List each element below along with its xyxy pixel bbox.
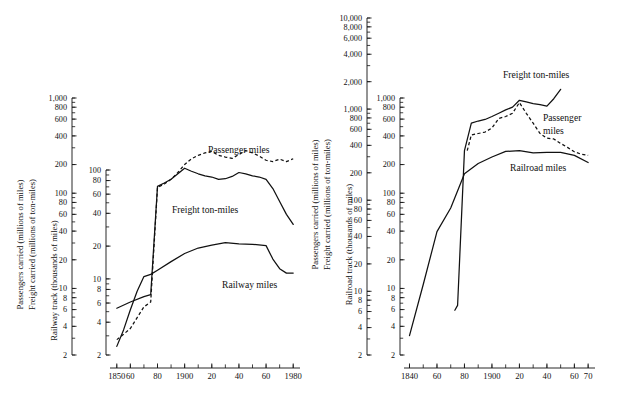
y-tick-label: 20 — [387, 256, 395, 265]
y-tick-label: 100 — [89, 166, 101, 175]
y-tick-label: 800 — [383, 103, 395, 112]
y-tick-label: 20 — [354, 260, 362, 269]
y-tick-label: 8 — [391, 294, 395, 303]
y-tick-label: 200 — [383, 160, 395, 169]
y-tick-label: 600 — [55, 115, 67, 124]
y-tick-label: 60 — [93, 190, 101, 199]
x-tick-label: 80 — [460, 371, 469, 381]
y-tick-label: 400 — [350, 141, 362, 150]
y-tick-label: 10 — [387, 284, 395, 293]
series-label-passenger-miles: Passenger miles — [208, 144, 270, 155]
y-tick-label: 1,000 — [377, 94, 395, 103]
y-tick-label: 10,000 — [339, 14, 362, 23]
series-passenger-miles — [117, 151, 293, 340]
y-tick-label: 6 — [63, 305, 67, 314]
y-tick-label: 8 — [358, 296, 362, 305]
y-tick-label: 100 — [55, 189, 67, 198]
y-tick-label: 1,000 — [344, 105, 362, 114]
outer-right-axis: 10,0008,0006,0004,0002,0001,000800600400… — [310, 14, 372, 360]
x-tick-label: 60 — [126, 371, 135, 381]
right-chart: 10,0008,0006,0004,0002,0001,000800600400… — [310, 14, 595, 381]
series-label-railroad-miles: Railroad miles — [510, 162, 566, 173]
y-tick-label: 6 — [97, 299, 101, 308]
y-axis-title: Passengers carried (millions of miles) — [310, 139, 320, 269]
x-tick-label: 1900 — [176, 371, 193, 381]
y-tick-label: 8 — [63, 294, 67, 303]
y-axis-title: Railway track (thousands of miles) — [49, 220, 59, 340]
y-tick-label: 2 — [391, 351, 395, 360]
x-tick-label: 40 — [543, 371, 552, 381]
railroad-statistics-figure: 1,00080060040020010080604020108642Passen… — [0, 0, 617, 407]
y-axis-title: Freight carried (millions of ton-miles) — [322, 139, 332, 270]
y-tick-label: 40 — [93, 209, 101, 218]
y-tick-label: 4 — [63, 322, 67, 331]
y-tick-label: 4 — [97, 318, 101, 327]
x-tick-label: 20 — [207, 371, 216, 381]
x-tick-label: 1850 — [108, 371, 125, 381]
x-tick-label: 60 — [262, 371, 271, 381]
series-label-freight-ton-miles: Freight ton-miles — [503, 69, 570, 80]
left-chart: 1,00080060040020010080604020108642Passen… — [15, 94, 302, 381]
y-tick-label: 600 — [383, 115, 395, 124]
y-tick-label: 8 — [97, 285, 101, 294]
outer-left-axis: 1,00080060040020010080604020108642Passen… — [15, 94, 77, 360]
y-tick-label: 40 — [354, 232, 362, 241]
y-tick-label: 10 — [59, 284, 67, 293]
y-axis-title: Passengers carried (millions of miles) — [15, 179, 25, 309]
y-tick-label: 2 — [97, 351, 101, 360]
figure-canvas: 1,00080060040020010080604020108642Passen… — [0, 0, 617, 407]
y-tick-label: 40 — [59, 227, 67, 236]
y-tick-label: 200 — [350, 169, 362, 178]
x-tick-label: 1980 — [285, 371, 302, 381]
x-tick-label: 1900 — [483, 371, 500, 381]
series-railway-miles — [117, 243, 293, 347]
y-tick-label: 6 — [391, 305, 395, 314]
y-tick-label: 6 — [358, 307, 362, 316]
y-axis-title: Freight carried (millions of ton-miles) — [27, 179, 37, 310]
x-tick-label: 80 — [153, 371, 162, 381]
right-chart-x-axis: 18406080190020406070 — [401, 363, 595, 381]
x-tick-label: 1840 — [401, 371, 418, 381]
y-tick-label: 800 — [350, 114, 362, 123]
y-tick-label: 60 — [354, 216, 362, 225]
y-tick-label: 60 — [59, 210, 67, 219]
left-chart-x-axis: 1850608019002040601980 — [108, 363, 302, 381]
y-tick-label: 4 — [391, 322, 395, 331]
x-tick-label: 40 — [235, 371, 244, 381]
y-tick-label: 400 — [383, 132, 395, 141]
y-tick-label: 400 — [55, 132, 67, 141]
y-tick-label: 100 — [383, 189, 395, 198]
y-tick-label: 2 — [358, 351, 362, 360]
x-tick-label: 20 — [515, 371, 524, 381]
y-tick-label: 6,000 — [344, 34, 362, 43]
series-label-railway-miles: Railway miles — [222, 279, 277, 290]
series-label-passenger-miles: miles — [543, 125, 564, 136]
y-tick-label: 10 — [354, 287, 362, 296]
y-tick-label: 1,000 — [49, 94, 67, 103]
y-tick-label: 800 — [55, 103, 67, 112]
y-tick-label: 200 — [55, 160, 67, 169]
x-tick-label: 60 — [433, 371, 442, 381]
series-passenger-miles — [467, 103, 588, 156]
y-tick-label: 10 — [93, 275, 101, 284]
y-tick-label: 2,000 — [344, 78, 362, 87]
y-tick-label: 80 — [387, 198, 395, 207]
y-tick-label: 60 — [387, 210, 395, 219]
series-label-passenger-miles: Passenger — [543, 112, 582, 123]
y-tick-label: 80 — [59, 198, 67, 207]
y-tick-label: 80 — [354, 205, 362, 214]
x-tick-label: 70 — [584, 371, 593, 381]
y-tick-label: 8,000 — [344, 23, 362, 32]
y-tick-label: 20 — [59, 256, 67, 265]
y-axis-title: Railroad track (thousands of miles) — [344, 184, 354, 305]
y-tick-label: 20 — [93, 242, 101, 251]
y-tick-label: 40 — [387, 227, 395, 236]
y-tick-label: 2 — [63, 351, 67, 360]
y-tick-label: 80 — [93, 176, 101, 185]
x-tick-label: 60 — [570, 371, 579, 381]
y-tick-label: 600 — [350, 125, 362, 134]
y-tick-label: 4,000 — [344, 50, 362, 59]
series-label-freight-ton-miles: Freight ton-miles — [172, 204, 239, 215]
series-railroad-miles — [410, 151, 589, 336]
y-tick-label: 4 — [358, 323, 362, 332]
